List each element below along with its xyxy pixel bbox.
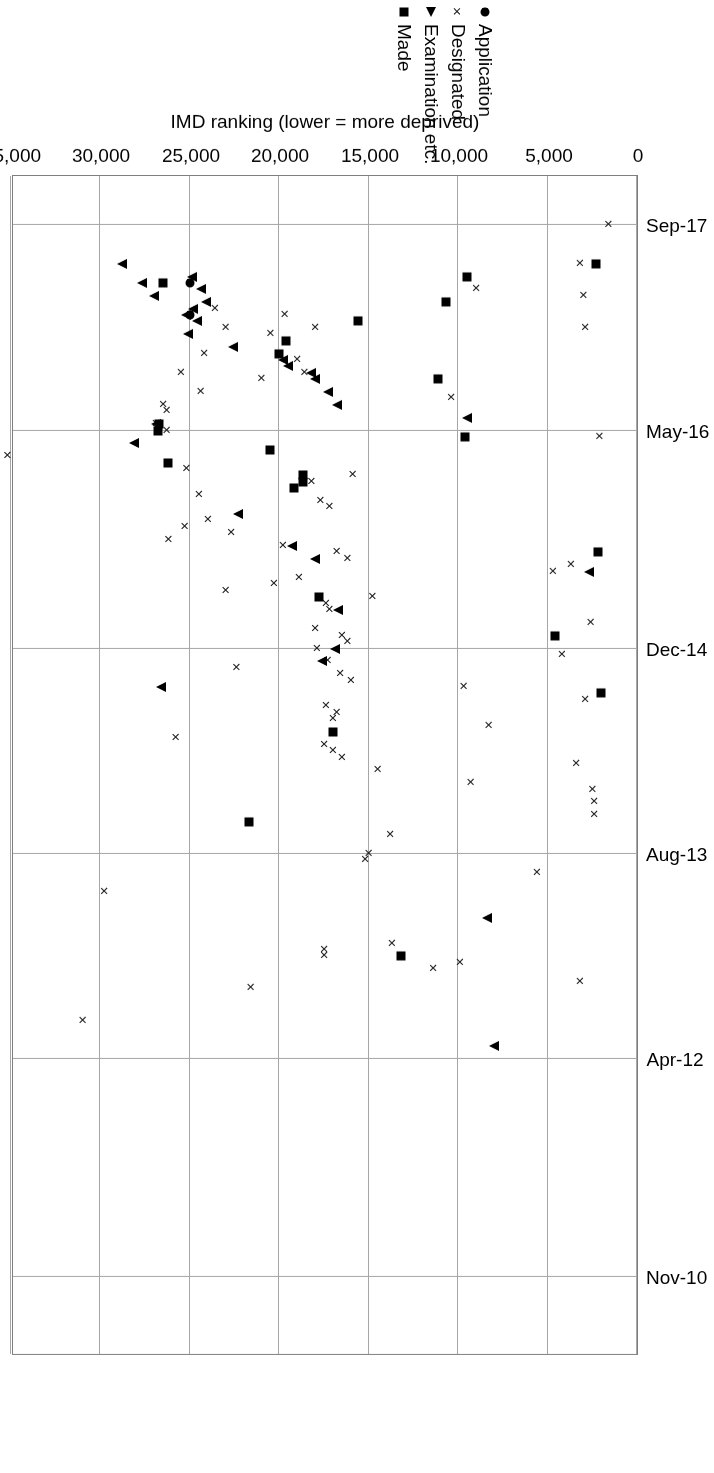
legend-marker-triangle-icon (425, 5, 438, 18)
data-point-triangle (482, 913, 492, 923)
data-point-cross (179, 521, 190, 532)
scatter-chart: 05,00010,00015,00020,00025,00030,00035,0… (0, 0, 714, 1473)
value-axis-tick-label: 30,000 (72, 145, 130, 167)
data-point-square (159, 279, 168, 288)
data-point-cross (574, 977, 585, 988)
data-point-cross (319, 951, 330, 962)
data-point-cross (99, 887, 110, 898)
data-point-triangle (117, 259, 127, 269)
data-point-cross (220, 322, 231, 333)
data-point-cross (268, 579, 279, 590)
data-point-cross (446, 393, 457, 404)
data-point-cross (163, 534, 174, 545)
data-point-triangle (192, 317, 202, 327)
data-point-square (282, 336, 291, 345)
gridline-value (99, 176, 100, 1354)
data-point-cross (226, 528, 237, 539)
data-point-cross (195, 387, 206, 398)
data-point-cross (279, 310, 290, 321)
gridline-date (13, 430, 637, 431)
legend-item: Made (393, 5, 415, 72)
gridline-value (457, 176, 458, 1354)
data-point-triangle (310, 374, 320, 384)
data-point-cross (585, 617, 596, 628)
data-point-cross (483, 720, 494, 731)
data-point-square (353, 317, 362, 326)
data-point-cross (293, 573, 304, 584)
data-point-triangle (187, 272, 197, 282)
data-point-cross (465, 778, 476, 789)
data-point-cross (2, 451, 13, 462)
legend-marker-square-icon (398, 5, 411, 18)
data-point-square (244, 817, 253, 826)
data-point-triangle (156, 682, 166, 692)
date-axis-tick-label: Nov-10 (646, 1267, 704, 1289)
data-point-cross (170, 733, 181, 744)
data-point-square (164, 458, 173, 467)
data-point-cross (580, 694, 591, 705)
data-point-triangle (462, 413, 472, 423)
data-point-square (441, 298, 450, 307)
data-point-square (463, 272, 472, 281)
chart-legend: ApplicationDesignatedExamination etc.Mad… (144, 5, 474, 155)
data-point-square (153, 426, 162, 435)
data-point-triangle (149, 291, 159, 301)
data-point-triangle (332, 400, 342, 410)
data-point-cross (556, 649, 567, 660)
data-point-cross (458, 682, 469, 693)
legend-label: Application (474, 24, 496, 117)
data-point-cross (471, 284, 482, 295)
value-axis-tick-label: 5,000 (525, 145, 573, 167)
data-point-cross (580, 322, 591, 333)
data-point-triangle (323, 387, 333, 397)
data-point-cross (161, 406, 172, 417)
data-point-cross (454, 957, 465, 968)
data-point-cross (342, 553, 353, 564)
data-point-cross (265, 329, 276, 340)
data-point-cross (594, 431, 605, 442)
data-point-square (593, 548, 602, 557)
data-point-cross (574, 258, 585, 269)
gridline-value (189, 176, 190, 1354)
data-point-square (275, 349, 284, 358)
data-point-cross (324, 502, 335, 513)
data-point-triangle (489, 1041, 499, 1051)
date-axis-tick-label: Aug-13 (646, 844, 704, 866)
data-point-triangle (283, 361, 293, 371)
data-point-cross (202, 515, 213, 526)
legend-label: Examination etc. (420, 24, 442, 164)
data-point-cross (342, 637, 353, 648)
legend-marker-cross-icon (452, 5, 465, 18)
data-point-triangle (333, 605, 343, 615)
date-axis-tick-label: Apr-12 (646, 1049, 704, 1071)
data-point-cross (311, 643, 322, 654)
data-point-cross (327, 714, 338, 725)
data-point-square (289, 484, 298, 493)
data-point-cross (589, 810, 600, 821)
gridline-value (10, 176, 11, 1354)
legend-item: Examination etc. (420, 5, 442, 164)
data-point-cross (220, 585, 231, 596)
data-point-triangle (287, 541, 297, 551)
data-point-cross (310, 322, 321, 333)
data-point-cross (571, 759, 582, 770)
data-point-square (550, 631, 559, 640)
plot-area (12, 175, 638, 1355)
data-point-square (591, 259, 600, 268)
legend-item: Application (474, 5, 496, 117)
data-point-cross (77, 1015, 88, 1026)
data-point-cross (336, 752, 347, 763)
data-point-cross (245, 983, 256, 994)
data-point-square (434, 375, 443, 384)
data-point-triangle (330, 644, 340, 654)
data-point-triangle (196, 284, 206, 294)
data-point-square (266, 445, 275, 454)
data-point-cross (310, 624, 321, 635)
gridline-date (13, 648, 637, 649)
data-point-triangle (137, 278, 147, 288)
value-axis-tick-label: 35,000 (0, 145, 41, 167)
date-axis-tick-label: Dec-14 (646, 639, 704, 661)
data-point-cross (367, 592, 378, 603)
data-point-square (314, 593, 323, 602)
legend-label: Designated (447, 24, 469, 120)
